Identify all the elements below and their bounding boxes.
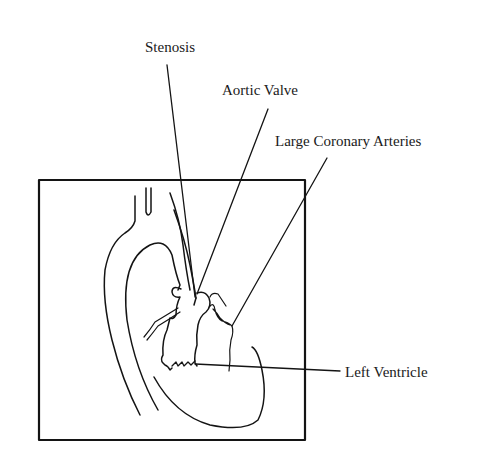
inner-arch-wall xyxy=(126,243,180,410)
coronary-leader-line xyxy=(232,158,327,326)
label-stenosis: Stenosis xyxy=(145,40,195,55)
left-ventricle-leader-line xyxy=(195,364,340,371)
label-large-coronary-arteries: Large Coronary Arteries xyxy=(275,134,421,149)
diagram-canvas: Stenosis Aortic Valve Large Coronary Art… xyxy=(0,0,495,461)
aorta-outer-wall xyxy=(104,196,140,415)
left-coronary-artery xyxy=(144,308,180,340)
aortic-branch-vessel xyxy=(146,188,151,215)
right-coronary-artery xyxy=(210,293,233,371)
left-ventricle-wall xyxy=(154,347,264,428)
valve-cusp-small xyxy=(194,298,196,305)
aorta-right-wall xyxy=(170,193,190,290)
aortic-valve-leader-line xyxy=(197,109,268,294)
heart-illustration xyxy=(0,0,495,461)
left-cusp xyxy=(162,288,182,370)
label-aortic-valve: Aortic Valve xyxy=(222,83,298,98)
label-left-ventricle: Left Ventricle xyxy=(345,365,428,380)
ventricle-base-trabeculae xyxy=(172,361,195,366)
aorta-inner-right-wall xyxy=(174,210,196,298)
aortic-valve-bulb xyxy=(195,292,210,366)
